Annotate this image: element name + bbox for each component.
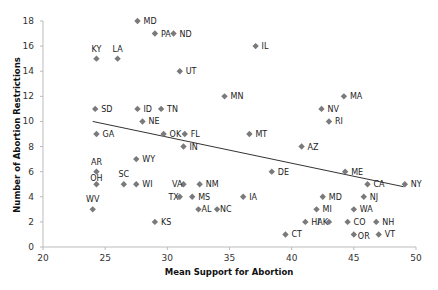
data-point: RI (326, 117, 343, 126)
y-tick-label: 14 (23, 66, 35, 76)
diamond-marker-icon (326, 118, 332, 124)
point-label: OK (170, 130, 182, 139)
diamond-marker-icon (90, 206, 96, 212)
point-label: CO (354, 218, 366, 227)
diamond-marker-icon (240, 194, 246, 200)
x-tick-label: 25 (99, 253, 110, 263)
data-point: FL (182, 130, 201, 139)
x-tick-label: 20 (37, 253, 49, 263)
point-label: NY (411, 180, 422, 189)
point-label: AR (91, 158, 102, 167)
x-tick-label: 40 (286, 253, 298, 263)
diamond-marker-icon (361, 194, 367, 200)
diamond-marker-icon (133, 181, 139, 187)
x-tick-label: 30 (162, 253, 174, 263)
data-point: KY (92, 45, 102, 62)
diamond-marker-icon (351, 206, 357, 212)
point-label: IL (262, 42, 269, 51)
diamond-marker-icon (152, 30, 158, 36)
data-point: VT (376, 230, 396, 239)
y-tick-label: 8 (28, 142, 34, 152)
data-point: LA (113, 45, 124, 62)
point-label: NV (328, 105, 340, 114)
diamond-marker-icon (92, 106, 98, 112)
point-label: OH (90, 174, 102, 183)
point-label: KS (161, 218, 171, 227)
data-point: NC (214, 205, 232, 214)
data-point: CA (364, 180, 385, 189)
data-point: UT (177, 67, 197, 76)
point-label: RI (335, 117, 343, 126)
point-label: GA (102, 130, 114, 139)
diamond-marker-icon (269, 168, 275, 174)
point-label: ND (180, 30, 192, 39)
point-label: ME (351, 168, 363, 177)
data-point: VA (172, 180, 187, 189)
point-label: DE (278, 168, 289, 177)
diamond-marker-icon (282, 231, 288, 237)
data-point: WV (86, 195, 100, 212)
x-axis-title: Mean Support for Abortion (165, 267, 294, 277)
diamond-marker-icon (158, 106, 164, 112)
point-label: FL (191, 130, 201, 139)
point-label: UT (186, 67, 197, 76)
point-label: WY (142, 155, 155, 164)
data-point: MT (246, 130, 267, 139)
point-label: VT (385, 230, 395, 239)
diamond-marker-icon (318, 106, 324, 112)
y-tick-label: 16 (23, 41, 35, 51)
diamond-marker-icon (298, 143, 304, 149)
diamond-marker-icon (344, 219, 350, 225)
data-point: MI (313, 205, 331, 214)
data-point: PA (152, 30, 172, 39)
data-points: MDPANDKYLAILUTMNMASDIDTNNVNERIGAOKFLMTIN… (86, 17, 422, 241)
data-point: AL (195, 205, 212, 214)
diamond-marker-icon (170, 30, 176, 36)
diamond-marker-icon (114, 55, 120, 61)
trend-line (93, 121, 404, 186)
data-point: MS (189, 193, 210, 202)
point-label: WI (142, 180, 152, 189)
diamond-marker-icon (139, 118, 145, 124)
diamond-marker-icon (93, 131, 99, 137)
point-label: ID (143, 105, 152, 114)
point-label: AK (317, 218, 328, 227)
point-label: OR (358, 232, 370, 241)
data-point: NV (318, 105, 339, 114)
data-point: AR (91, 158, 102, 175)
diamond-marker-icon (177, 68, 183, 74)
trendline (93, 121, 404, 186)
diamond-marker-icon (121, 181, 127, 187)
scatter-chart: 20253035404550024681012141618 MDPANDKYLA… (0, 0, 438, 290)
data-point: ME (342, 168, 363, 177)
y-tick-label: 10 (23, 116, 35, 126)
x-tick-label: 45 (348, 253, 359, 263)
point-label: MD (329, 193, 342, 202)
diamond-marker-icon (180, 143, 186, 149)
data-point: IA (240, 193, 258, 202)
diamond-marker-icon (302, 219, 308, 225)
diamond-marker-icon (376, 231, 382, 237)
diamond-marker-icon (152, 219, 158, 225)
data-point: SC (118, 170, 129, 187)
data-point: SD (92, 105, 112, 114)
data-point: NM (196, 180, 218, 189)
diamond-marker-icon (133, 156, 139, 162)
diamond-marker-icon (93, 55, 99, 61)
data-point: WI (133, 180, 152, 189)
point-label: TX (167, 193, 179, 202)
data-point: ID (134, 105, 152, 114)
y-tick-label: 4 (28, 192, 34, 202)
point-label: NH (382, 218, 394, 227)
data-point: NY (402, 180, 422, 189)
point-label: CA (374, 180, 386, 189)
chart-canvas: 20253035404550024681012141618 MDPANDKYLA… (0, 0, 438, 290)
point-label: SD (101, 105, 112, 114)
data-point: ND (170, 30, 191, 39)
diamond-marker-icon (252, 43, 258, 49)
x-tick-label: 35 (224, 253, 235, 263)
point-label: SC (118, 170, 129, 179)
data-point: OK (160, 130, 181, 139)
y-tick-label: 12 (23, 91, 34, 101)
data-point: NE (139, 117, 159, 126)
